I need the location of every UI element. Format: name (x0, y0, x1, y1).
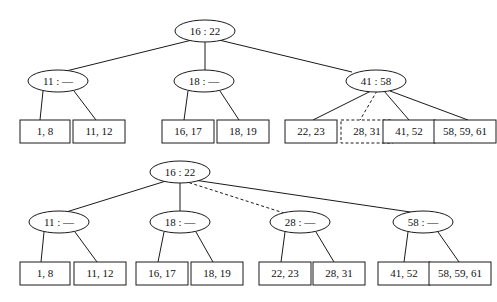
bottom-leaf-18-19[interactable]: 18, 19 (191, 262, 243, 285)
top-leaf-41-52-label: 41, 52 (395, 125, 423, 137)
top-leaf-11-12-label: 11, 12 (85, 125, 112, 137)
bottom-leaf-28-31[interactable]: 28, 31 (313, 262, 365, 285)
top-node-11-label: 11 : — (43, 75, 74, 87)
edge-bottom-node58-to-leaf-41-52 (404, 232, 408, 262)
edge-top-node18-to-leaf-18-19 (220, 91, 239, 120)
top-leaf-22-23[interactable]: 22, 23 (285, 120, 337, 143)
bottom-tree: 16 : 22 11 : — 18 : — 28 : — 58 : — (20, 161, 491, 285)
top-leaf-11-12[interactable]: 11, 12 (73, 120, 125, 143)
bottom-leaf-18-19-label: 18, 19 (203, 267, 231, 279)
edge-top-node41-to-leaf-58-59-61 (390, 91, 468, 120)
bottom-leaf-58-59-61-label: 58, 59, 61 (438, 267, 482, 279)
bottom-leaf-11-12-label: 11, 12 (86, 267, 113, 279)
top-leaf-18-19-label: 18, 19 (229, 125, 257, 137)
bottom-leaf-16-17[interactable]: 16, 17 (136, 262, 188, 285)
top-leaf-28-31-label: 28, 31 (353, 125, 381, 137)
top-leaf-1-8[interactable]: 1, 8 (20, 120, 70, 143)
top-leaf-58-59-61-label: 58, 59, 61 (443, 125, 487, 137)
top-node-18[interactable]: 18 : — (174, 70, 234, 92)
bottom-node-18[interactable]: 18 : — (150, 211, 210, 233)
bottom-leaf-22-23[interactable]: 22, 23 (259, 262, 311, 285)
diagram-canvas: 16 : 22 11 : — 18 : — 41 : 58 1, 8 (0, 0, 497, 302)
edge-bottom-node28-to-leaf-22-23 (281, 232, 285, 262)
edge-top-root-to-node-41 (219, 40, 352, 72)
bottom-leaf-41-52-label: 41, 52 (390, 267, 418, 279)
top-leaf-18-19[interactable]: 18, 19 (217, 120, 269, 143)
edge-bottom-root-to-node-58 (194, 180, 417, 213)
bottom-leaf-1-8[interactable]: 1, 8 (20, 262, 70, 285)
top-node-41[interactable]: 41 : 58 (346, 70, 406, 92)
edge-bottom-node11-to-leaf-1-8 (41, 232, 44, 262)
top-leaf-41-52[interactable]: 41, 52 (383, 120, 435, 143)
bottom-leaf-11-12[interactable]: 11, 12 (74, 262, 126, 285)
bottom-node-28[interactable]: 28 : — (270, 211, 330, 233)
bottom-node-58[interactable]: 58 : — (393, 211, 453, 233)
edge-top-root-to-node-11 (62, 40, 192, 72)
bottom-leaf-28-31-label: 28, 31 (325, 267, 353, 279)
edge-bottom-root-to-node-11 (63, 181, 166, 213)
top-tree: 16 : 22 11 : — 18 : — 41 : 58 1, 8 (20, 20, 496, 143)
top-leaf-22-23-label: 22, 23 (297, 125, 325, 137)
edge-top-node18-to-leaf-16-17 (184, 91, 188, 120)
bottom-leaf-1-8-label: 1, 8 (37, 267, 54, 279)
top-root-node[interactable]: 16 : 22 (175, 20, 235, 42)
top-leaf-16-17-label: 16, 17 (174, 125, 202, 137)
bottom-root-node-label: 16 : 22 (165, 166, 196, 178)
edge-top-node11-to-leaf-1-8 (40, 91, 43, 120)
edge-bottom-node58-to-leaf-58-59-61 (438, 232, 459, 262)
top-node-11[interactable]: 11 : — (28, 70, 88, 92)
bottom-leaf-41-52[interactable]: 41, 52 (378, 262, 430, 285)
top-root-node-label: 16 : 22 (190, 25, 221, 37)
bottom-node-28-label: 28 : — (285, 216, 317, 228)
edge-bottom-node18-to-leaf-16-17 (158, 232, 164, 262)
bottom-leaf-22-23-label: 22, 23 (271, 267, 299, 279)
bottom-leaf-58-59-61[interactable]: 58, 59, 61 (429, 262, 491, 285)
bottom-node-11-label: 11 : — (44, 216, 75, 228)
top-node-41-label: 41 : 58 (361, 75, 392, 87)
edge-bottom-node28-to-leaf-28-31 (316, 232, 334, 262)
bottom-node-18-label: 18 : — (165, 216, 197, 228)
bottom-node-58-label: 58 : — (408, 216, 440, 228)
bottom-leaf-16-17-label: 16, 17 (148, 267, 176, 279)
edge-top-node11-to-leaf-11-12 (74, 91, 96, 120)
bottom-node-11[interactable]: 11 : — (29, 211, 89, 233)
top-leaf-16-17[interactable]: 16, 17 (162, 120, 214, 143)
edge-top-node41-to-leaf-41-52 (384, 91, 409, 120)
top-leaf-1-8-label: 1, 8 (37, 125, 54, 137)
top-node-18-label: 18 : — (189, 75, 221, 87)
edge-bottom-node11-to-leaf-11-12 (75, 232, 97, 262)
edge-bottom-node18-to-leaf-18-19 (196, 232, 213, 262)
bottom-root-node[interactable]: 16 : 22 (150, 161, 210, 183)
top-leaf-58-59-61[interactable]: 58, 59, 61 (434, 120, 496, 143)
btree-diagram: 16 : 22 11 : — 18 : — 41 : 58 1, 8 (0, 0, 497, 302)
